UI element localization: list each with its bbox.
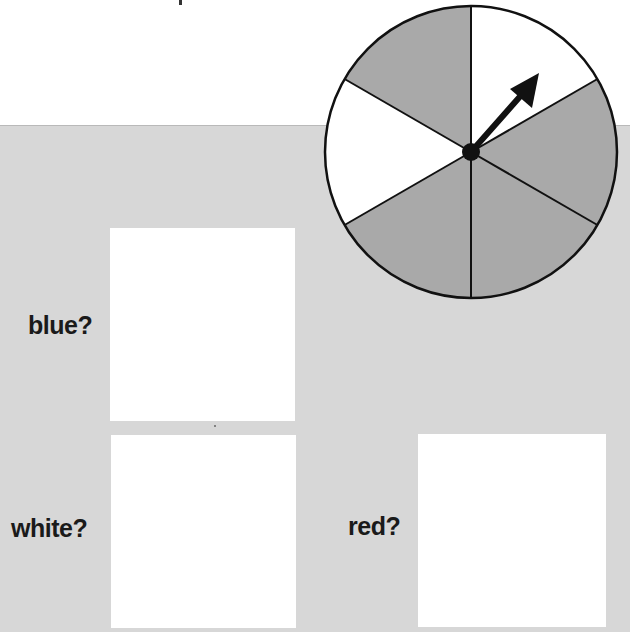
- answer-box-white[interactable]: [111, 435, 296, 628]
- question-label-red: red?: [348, 512, 400, 541]
- question-label-white: white?: [11, 514, 87, 543]
- top-tick-mark: [179, 0, 182, 5]
- stray-dot: [214, 425, 216, 427]
- question-label-blue: blue?: [28, 311, 92, 340]
- spinner-hub: [462, 143, 480, 161]
- answer-box-red[interactable]: [418, 434, 606, 627]
- spinner: [320, 0, 630, 310]
- answer-box-blue[interactable]: [110, 228, 295, 421]
